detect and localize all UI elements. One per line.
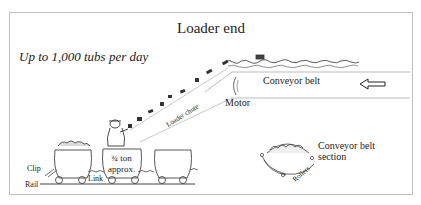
rollers-label: Rollers — [291, 164, 312, 183]
coal-on-belt — [225, 55, 359, 68]
tub-empty — [155, 150, 192, 184]
clip-label: Clip — [27, 164, 41, 173]
conveyor-belt-section-label: Conveyor belt section — [318, 140, 375, 162]
tub-loaded — [55, 141, 92, 184]
conveyor-belt-label: Conveyor belt — [263, 75, 320, 86]
section-line2: section — [318, 151, 375, 162]
section-line1: Conveyor belt — [318, 140, 375, 151]
tub-capacity-line1: ¾ ton — [108, 153, 135, 164]
loader-chute — [130, 68, 232, 142]
tub-capacity-label: ¾ ton approx. — [108, 153, 135, 175]
tub-capacity-line2: approx. — [108, 164, 135, 175]
motor-label: Motor — [225, 97, 250, 108]
left-arrow-icon — [360, 79, 385, 89]
link-label: Link — [88, 174, 103, 183]
rail-label: Rail — [25, 180, 38, 189]
motor-drum — [234, 77, 239, 95]
miner-figure — [107, 120, 128, 146]
loader-illustration: Loader chute Rollers — [0, 0, 421, 205]
